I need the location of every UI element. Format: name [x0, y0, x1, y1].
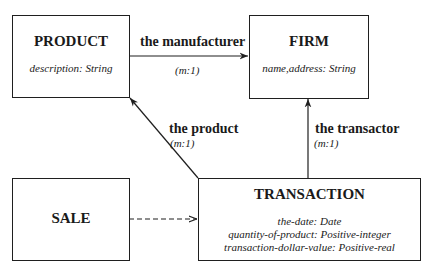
- entity-product-attribute: description: String: [13, 62, 129, 74]
- entity-firm-title: FIRM: [250, 33, 368, 50]
- entity-transaction-attribute-date: the-date: Date: [199, 215, 420, 227]
- relationship-label-transactor: the transactor: [315, 121, 399, 137]
- entity-sale: SALE: [12, 178, 130, 261]
- entity-firm: FIRM name,address: String: [249, 15, 369, 99]
- relationship-cardinality-transactor: (m:1): [314, 137, 338, 149]
- entity-transaction-attribute-quantity: quantity-of-product: Positive-integer: [199, 228, 420, 240]
- entity-product: PRODUCT description: String: [12, 15, 130, 98]
- entity-transaction-title: TRANSACTION: [199, 186, 420, 203]
- entity-product-title: PRODUCT: [13, 33, 129, 50]
- relationship-cardinality-manufacturer: (m:1): [175, 64, 199, 76]
- relationship-cardinality-product: (m:1): [170, 137, 194, 149]
- entity-sale-title: SALE: [13, 210, 129, 227]
- entity-transaction-attribute-value: transaction-dollar-value: Positive-real: [199, 241, 420, 253]
- entity-firm-attribute: name,address: String: [250, 62, 368, 74]
- relationship-label-manufacturer: the manufacturer: [140, 34, 245, 50]
- entity-transaction: TRANSACTION the-date: Date quantity-of-p…: [198, 178, 421, 261]
- relationship-label-product: the product: [169, 121, 238, 137]
